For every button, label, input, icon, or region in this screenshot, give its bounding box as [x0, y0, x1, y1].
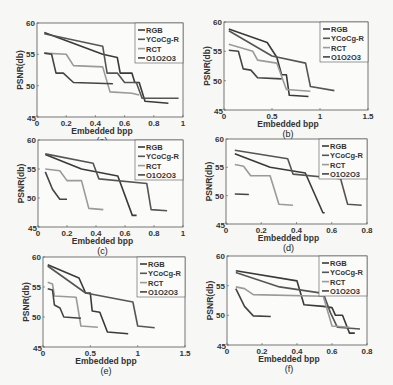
- panel-caption: (d): [283, 243, 294, 253]
- y-tick-label: 55: [216, 282, 225, 291]
- legend-label: YCoCg-R: [331, 34, 364, 43]
- x-tick-label: 0.8: [148, 229, 160, 238]
- y-tick-label: 50: [213, 77, 222, 86]
- legend-label: RGB: [331, 25, 348, 34]
- x-tick-label: 0.8: [148, 119, 160, 128]
- legend-label: RCT: [330, 278, 346, 287]
- x-axis-label: Embedded bpp: [71, 126, 132, 136]
- chart-panel-c: 50556000.20.40.60.8145Embedded bppPSNR(d…: [16, 136, 186, 256]
- x-tick-label: 0.6: [326, 347, 338, 356]
- legend-label: YCoCg-R: [146, 35, 179, 44]
- panel-caption: (e): [101, 366, 112, 376]
- y-axis-label: PSNR(db): [15, 50, 25, 90]
- y-tick-label: 50: [27, 194, 36, 203]
- y-tick-label: 55: [213, 47, 222, 56]
- x-axis-label: Embedded bpp: [258, 233, 319, 243]
- y-axis-label: PSNR(db): [205, 281, 215, 321]
- legend-label: O1O2O3: [330, 287, 360, 296]
- panel-caption: (f): [285, 364, 294, 374]
- series-line-o1o2o3: [235, 194, 249, 195]
- legend-label: YCoCg-R: [146, 152, 179, 161]
- y-tick-label: 60: [216, 252, 225, 261]
- legend-label: RGB: [146, 143, 163, 152]
- x-tick-label: 0.8: [361, 347, 373, 356]
- y-tick-label: 55: [32, 283, 41, 292]
- y-tick-label: 50: [26, 82, 35, 91]
- panel-caption: (c): [97, 246, 108, 256]
- y-axis-label: PSNR(db): [204, 162, 214, 202]
- legend-label: YCoCg-R: [330, 268, 363, 277]
- figure: 50556000.20.40.60.8145Embedded bppPSNR(d…: [0, 0, 393, 385]
- chart-panel-b: 50556000.511.545Embedded bppPSNR(db)(b)R…: [202, 18, 374, 139]
- y-tick-label: 50: [215, 192, 224, 201]
- legend-label: RCT: [146, 45, 162, 54]
- y-tick-label: 50: [216, 311, 225, 320]
- x-tick-label: 1.5: [179, 349, 191, 358]
- legend-label: RGB: [330, 259, 347, 268]
- y-tick-label: 55: [27, 165, 36, 174]
- y-axis-label: PSNR(db): [16, 164, 26, 204]
- legend-label: RCT: [330, 161, 346, 170]
- y-tick-label-min: 45: [217, 342, 226, 351]
- x-axis-label: Embedded bpp: [72, 236, 133, 246]
- legend-label: RGB: [146, 26, 163, 35]
- legend-label: O1O2O3: [146, 54, 176, 63]
- x-tick-label: 1: [181, 229, 186, 238]
- y-tick-label: 60: [213, 18, 222, 27]
- y-tick-label: 60: [215, 135, 224, 144]
- y-axis-label: PSNR(db): [202, 46, 212, 86]
- y-tick-label: 55: [26, 50, 35, 59]
- chart-panel-f: 50556000.20.40.60.845Embedded bppPSNR(db…: [205, 252, 373, 374]
- y-tick-label-min: 45: [28, 224, 37, 233]
- chart-panel-e: 50556000.511.545Embedded bppPSNR(db)(e)R…: [21, 253, 191, 376]
- y-tick-label: 50: [32, 313, 41, 322]
- legend-label: YCoCg-R: [148, 269, 181, 278]
- legend-label: RGB: [330, 142, 347, 151]
- x-axis-label: Embedded bpp: [75, 356, 136, 366]
- y-axis-label: PSNR(db): [21, 282, 31, 322]
- y-tick-label: 60: [27, 136, 36, 145]
- panel-caption: (b): [283, 129, 294, 139]
- y-tick-label-min: 45: [27, 114, 36, 123]
- legend-label: RCT: [148, 279, 164, 288]
- y-tick-label: 60: [32, 253, 41, 262]
- legend-label: RGB: [148, 260, 165, 269]
- x-axis-label: Embedded bpp: [257, 119, 318, 129]
- legend-label: RCT: [331, 44, 347, 53]
- legend-label: YCoCg-R: [330, 151, 363, 160]
- legend-label: O1O2O3: [331, 53, 361, 62]
- chart-panel-a: 50556000.20.40.60.8145Embedded bppPSNR(d…: [15, 19, 186, 146]
- x-tick-label: 1: [181, 119, 186, 128]
- x-tick-label: 1.5: [362, 112, 374, 121]
- x-tick-label: 0.6: [326, 226, 338, 235]
- y-tick-label-min: 45: [33, 344, 42, 353]
- legend-label: O1O2O3: [148, 288, 178, 297]
- y-tick-label: 60: [26, 19, 35, 28]
- legend-label: RCT: [146, 162, 162, 171]
- y-tick-label: 55: [215, 163, 224, 172]
- y-tick-label-min: 45: [216, 221, 225, 230]
- x-axis-label: Embedded bpp: [258, 354, 319, 364]
- legend-label: O1O2O3: [146, 171, 176, 180]
- y-tick-label-min: 45: [214, 107, 223, 116]
- legend-label: O1O2O3: [330, 170, 360, 179]
- chart-panel-d: 50556000.20.40.60.845Embedded bppPSNR(db…: [204, 135, 373, 253]
- x-tick-label: 0.8: [361, 226, 373, 235]
